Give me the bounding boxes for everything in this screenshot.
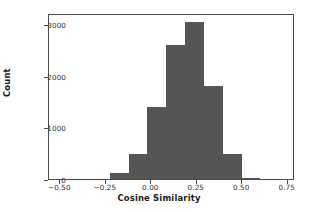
histogram-bar [185, 22, 204, 179]
x-tick-label: 0.75 [279, 183, 295, 192]
histogram-figure: Count Cosine Similarity 0100020003000−0.… [0, 0, 318, 212]
x-tick-label: −0.50 [48, 183, 71, 192]
x-tick-label: 0.25 [188, 183, 204, 192]
histogram-bar [129, 154, 148, 179]
y-tick-mark [44, 180, 48, 181]
y-tick-label: 1000 [47, 124, 66, 133]
y-tick-label: 3000 [47, 20, 66, 29]
histogram-bar [223, 154, 242, 179]
x-tick-label: −0.25 [94, 183, 117, 192]
histogram-bar [204, 86, 223, 179]
histogram-bar [110, 173, 129, 179]
y-tick-label: 2000 [47, 72, 66, 81]
x-axis-label: Cosine Similarity [0, 193, 318, 203]
histogram-bar [147, 107, 166, 179]
x-tick-label: 0.00 [142, 183, 158, 192]
histogram-bar [242, 178, 261, 179]
x-tick-label: 0.50 [233, 183, 249, 192]
y-axis-label: Count [2, 68, 12, 97]
plot-area [48, 14, 294, 180]
histogram-bar [166, 45, 185, 179]
